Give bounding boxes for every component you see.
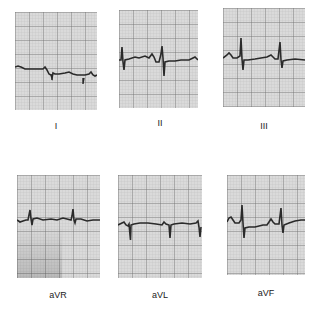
lead-label-i: I xyxy=(16,121,96,131)
ecg-strip-lead-i xyxy=(15,12,97,110)
lead-label-avr: aVR xyxy=(18,290,98,300)
ecg-panel-lead-avf xyxy=(227,175,305,275)
ecg-strip-lead-avl xyxy=(118,175,202,278)
ecg-panel-lead-i xyxy=(15,12,97,110)
ecg-panel-lead-avr xyxy=(17,175,100,278)
lead-label-avl: aVL xyxy=(120,290,200,300)
lead-label-ii: II xyxy=(120,118,200,128)
ecg-panel-lead-iii xyxy=(223,8,305,107)
ecg-strip-lead-ii xyxy=(119,10,198,108)
ecg-strip-lead-avr xyxy=(17,175,100,278)
ecg-panel-lead-ii xyxy=(119,10,198,108)
ecg-strip-lead-avf xyxy=(227,175,305,275)
ecg-strip-lead-iii xyxy=(223,8,305,107)
lead-label-iii: III xyxy=(224,121,304,131)
ecg-panel-lead-avl xyxy=(118,175,202,278)
lead-label-avf: aVF xyxy=(226,288,306,298)
